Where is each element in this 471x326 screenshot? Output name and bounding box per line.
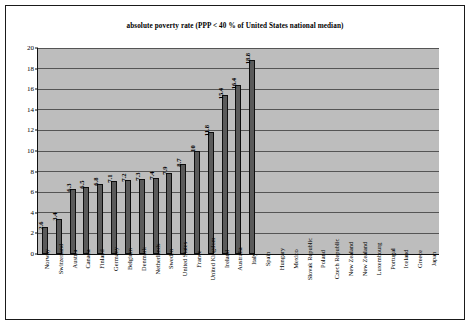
x-axis-category-label: Japan <box>431 252 437 267</box>
x-label-slot: Luxembourg <box>369 256 383 318</box>
bar-value-label: 7.3 <box>135 173 142 181</box>
plot-area: 02468101214161820 2.63.46.36.56.87.17.27… <box>37 48 439 255</box>
x-label-slot: Slovak Republic <box>300 256 314 318</box>
x-axis-category-label: Slovak Republic <box>307 238 313 280</box>
bar-value-label: 10 <box>190 146 197 153</box>
x-axis-category-label: United Kingdom <box>210 237 216 280</box>
bar[interactable] <box>125 180 131 254</box>
x-label-slot: France <box>189 256 203 318</box>
bar[interactable] <box>208 132 214 254</box>
x-label-slot: Spain <box>258 256 272 318</box>
x-label-slot: Germany <box>106 256 120 318</box>
bar-value-label: 6.3 <box>66 183 73 191</box>
x-axis-category-label: Ireland <box>224 250 230 268</box>
bar-slot: 7.2 <box>121 48 135 254</box>
x-axis-category-label: United States <box>182 242 188 276</box>
bar-slot <box>398 48 412 254</box>
bar[interactable] <box>249 60 255 254</box>
bars-group: 2.63.46.36.56.87.17.27.37.47.98.71011.81… <box>38 48 439 254</box>
x-axis-category-label: Denmark <box>141 247 147 271</box>
y-axis-tick-label: 18 <box>27 65 34 73</box>
x-label-slot: United States <box>175 256 189 318</box>
x-axis-category-label: Portugal <box>390 248 396 270</box>
bar-slot: 3.4 <box>52 48 66 254</box>
x-axis-category-label: Belgium <box>127 248 133 270</box>
x-axis-category-label: Mexico <box>293 249 299 269</box>
bar-value-label: 7.2 <box>121 174 128 182</box>
x-label-slot: United Kingdom <box>203 256 217 318</box>
x-axis-category-label: Canada <box>85 249 91 268</box>
y-axis-tick-label: 2 <box>31 229 35 237</box>
y-axis-tick-label: 10 <box>27 147 34 155</box>
chart-frame: absolute poverty rate (PPP < 40 % of Uni… <box>5 5 465 320</box>
bar[interactable] <box>166 173 172 254</box>
bar[interactable] <box>180 164 186 254</box>
bar-value-label: 11.8 <box>204 125 211 136</box>
x-label-slot: Finland <box>92 256 106 318</box>
bar-value-label: 7.4 <box>149 172 156 180</box>
bar[interactable] <box>83 187 89 254</box>
y-axis-tick-label: 20 <box>27 44 34 52</box>
bar[interactable] <box>97 184 103 254</box>
y-axis-tick-label: 0 <box>31 250 35 258</box>
chart-title: absolute poverty rate (PPP < 40 % of Uni… <box>6 22 464 30</box>
x-axis-category-label: Hungary <box>279 248 285 270</box>
x-label-slot: Czech Republic <box>327 256 341 318</box>
x-label-slot: Poland <box>314 256 328 318</box>
bar-slot: 7.4 <box>149 48 163 254</box>
bar[interactable] <box>139 179 145 254</box>
bar-slot <box>342 48 356 254</box>
x-axis-category-label: Spain <box>265 252 271 267</box>
bar-slot <box>411 48 425 254</box>
bar[interactable] <box>111 181 117 254</box>
bar[interactable] <box>194 151 200 254</box>
y-axis-tick-label: 14 <box>27 106 34 114</box>
bar-slot <box>287 48 301 254</box>
y-axis-tick-label: 12 <box>27 126 34 134</box>
x-label-slot: Iceland <box>397 256 411 318</box>
x-label-slot: Denmark <box>134 256 148 318</box>
bar-slot: 6.3 <box>66 48 80 254</box>
bar-value-label: 2.6 <box>38 221 45 229</box>
x-axis-category-label: Germany <box>113 247 119 271</box>
bar-slot: 18.8 <box>245 48 259 254</box>
bar[interactable] <box>70 189 76 254</box>
x-axis-category-label: Iceland <box>403 250 409 269</box>
x-label-slot: Australia <box>231 256 245 318</box>
x-axis-category-label: Poland <box>320 250 326 268</box>
x-label-slot: Netherlands <box>148 256 162 318</box>
bar[interactable] <box>235 85 241 254</box>
bar-slot: 10 <box>190 48 204 254</box>
x-axis-category-label: Greece <box>417 250 423 268</box>
bar-slot: 16.4 <box>232 48 246 254</box>
x-label-slot: Switzerland <box>51 256 65 318</box>
x-label-slot: Italy <box>244 256 258 318</box>
bar-slot <box>370 48 384 254</box>
bar-value-label: 18.8 <box>246 53 253 65</box>
y-axis-tick-label: 4 <box>31 209 35 217</box>
x-label-slot: Norway <box>37 256 51 318</box>
bar-value-label: 7.9 <box>163 167 170 175</box>
bar-slot <box>273 48 287 254</box>
bar-value-label: 8.7 <box>177 158 184 166</box>
bar-value-label: 3.4 <box>52 213 59 221</box>
x-label-slot: Ireland <box>217 256 231 318</box>
bar-value-label: 16.4 <box>232 77 239 89</box>
x-axis-category-label: New Zealand <box>348 242 354 276</box>
x-axis-category-label: Australia <box>237 247 243 270</box>
bar-slot <box>425 48 439 254</box>
bar-slot: 6.5 <box>79 48 93 254</box>
x-label-slot: Sweden <box>161 256 175 318</box>
x-axis-category-label: Czech Republic <box>334 239 340 280</box>
x-label-slot: New Zealand <box>341 256 355 318</box>
y-axis-tick-label: 16 <box>27 85 34 93</box>
bar-slot <box>356 48 370 254</box>
bar-value-label: 6.5 <box>80 181 87 189</box>
y-axis-tick-label: 6 <box>31 188 35 196</box>
bar-slot: 7.9 <box>162 48 176 254</box>
x-axis-category-label: Italy <box>251 253 257 265</box>
bar[interactable] <box>222 95 228 254</box>
bar-slot <box>328 48 342 254</box>
bar-slot: 7.1 <box>107 48 121 254</box>
x-label-slot: Japan <box>424 256 438 318</box>
